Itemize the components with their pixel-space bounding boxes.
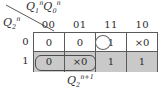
figure-caption: Q2n+1 <box>0 75 161 87</box>
column-header-00: 00 <box>33 17 64 32</box>
karnaugh-map-figure: Q1nQ0n Q2n 00 01 11 10 0 1 0 0 1 ×0 0 ×0… <box>0 0 161 93</box>
cell-r0-c00: 0 <box>33 33 65 51</box>
cell-r0-c10: ×0 <box>127 33 158 51</box>
column-variable-1: Q1n <box>26 0 43 13</box>
cell-r1-c01: ×0 <box>65 52 96 72</box>
cell-r1-c11: 1 <box>96 52 127 72</box>
cell-r1-c10: 1 <box>127 52 158 72</box>
cell-r0-c11: 1 <box>96 33 127 51</box>
table-row: 0 ×0 1 1 <box>33 52 158 72</box>
cell-r1-c00: 0 <box>33 52 65 72</box>
row-header-0: 0 <box>20 36 31 47</box>
row-variable-label: Q2n <box>3 17 20 28</box>
column-header-01: 01 <box>64 17 95 32</box>
column-header-row: 00 01 11 10 <box>33 17 158 32</box>
kmap-grid: 0 0 1 ×0 0 ×0 1 1 <box>33 33 158 72</box>
cell-r0-c01: 0 <box>65 33 96 51</box>
column-variable-label: Q1nQ0n <box>26 1 61 12</box>
column-variable-0: Q0n <box>43 0 60 13</box>
column-header-11: 11 <box>96 17 127 32</box>
table-row: 0 0 1 ×0 <box>33 33 158 52</box>
column-header-10: 10 <box>127 17 158 32</box>
row-header-1: 1 <box>20 55 31 66</box>
